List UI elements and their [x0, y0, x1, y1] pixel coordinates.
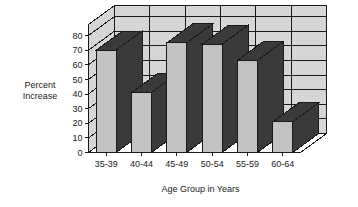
bar-chart-figure: 0102030405060708035-3940-4445-4950-5455-… [0, 0, 358, 207]
y-axis-title-line2: Increase [23, 91, 58, 101]
x-tick-label-55-59: 55-59 [236, 159, 259, 169]
y-tick-label-50: 50 [72, 75, 82, 85]
x-tick-label-50-54: 50-54 [201, 159, 224, 169]
y-tick-label-40: 40 [72, 89, 82, 99]
y-tick-label-30: 30 [72, 104, 82, 114]
chart-canvas: 0102030405060708035-3940-4445-4950-5455-… [0, 0, 358, 207]
bar-front-40-44 [132, 93, 152, 153]
bar-front-55-59 [238, 60, 258, 152]
y-tick-label-10: 10 [72, 133, 82, 143]
x-tick-label-45-49: 45-49 [165, 159, 188, 169]
y-tick-label-60: 60 [72, 60, 82, 70]
x-axis-title: Age Group in Years [161, 184, 240, 194]
y-tick-label-70: 70 [72, 45, 82, 55]
bar-front-35-39 [96, 50, 116, 152]
bar-front-50-54 [202, 44, 222, 152]
x-tick-label-60-64: 60-64 [271, 159, 294, 169]
y-tick-label-20: 20 [72, 118, 82, 128]
x-tick-label-35-39: 35-39 [95, 159, 118, 169]
y-axis-title-line1: Percent [24, 80, 56, 90]
y-tick-label-0: 0 [77, 148, 82, 158]
bar-front-60-64 [273, 122, 293, 153]
bar-front-45-49 [167, 43, 187, 153]
y-tick-label-80: 80 [72, 31, 82, 41]
x-tick-label-40-44: 40-44 [130, 159, 153, 169]
